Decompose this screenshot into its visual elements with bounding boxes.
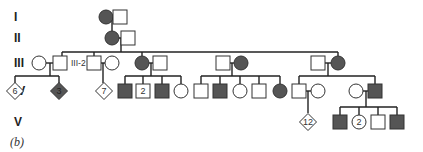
unaffected-male-symbol <box>87 56 101 70</box>
affected-female-symbol <box>105 31 119 45</box>
affected-male-symbol <box>333 115 347 129</box>
individual-III-10 <box>331 56 345 70</box>
individual-IV-m <box>292 84 306 98</box>
individual-III-6 <box>153 56 167 70</box>
individual-IV-j <box>233 84 247 98</box>
individual-V-e <box>390 115 404 129</box>
individual-III-4 <box>105 56 119 70</box>
unaffected-female-symbol <box>349 84 363 98</box>
unaffected-female-symbol <box>311 84 325 98</box>
individual-IV-e: 2 <box>136 84 150 98</box>
panel-label: (b) <box>10 135 24 149</box>
individual-IV-h <box>194 84 208 98</box>
unaffected-male-symbol <box>311 56 325 70</box>
affected-female-symbol <box>135 56 149 70</box>
individual-III-8 <box>234 56 248 70</box>
affected-male-symbol <box>155 84 169 98</box>
individual-label: III-2 <box>71 58 86 68</box>
generation-labels: IIIIIIIVV <box>14 10 25 129</box>
individual-IV-f <box>155 84 169 98</box>
unaffected-male-symbol <box>121 31 135 45</box>
individual-I-1 <box>99 10 113 24</box>
affected-male-symbol <box>118 84 132 98</box>
unaffected-male-symbol <box>153 56 167 70</box>
individual-III-9 <box>311 56 325 70</box>
generation-label: II <box>14 31 21 45</box>
affected-male-symbol <box>390 115 404 129</box>
unaffected-male-symbol <box>292 84 306 98</box>
individual-III-2: III-2 <box>53 56 86 70</box>
individual-II-1 <box>105 31 119 45</box>
unaffected-female-symbol <box>105 56 119 70</box>
unaffected-female-symbol <box>174 84 188 98</box>
sibling-count: 7 <box>101 86 106 96</box>
unaffected-male-symbol <box>216 56 230 70</box>
generation-label: V <box>14 115 22 129</box>
individual-IV-k <box>252 84 266 98</box>
affected-female-symbol <box>234 56 248 70</box>
individual-V-a: 12 <box>300 114 317 131</box>
individual-IV-p <box>368 84 382 98</box>
individual-III-3 <box>87 56 101 70</box>
affected-female-symbol <box>99 10 113 24</box>
unaffected-male-symbol <box>252 84 266 98</box>
affected-male-symbol <box>213 84 227 98</box>
sibling-count: 6 <box>12 86 17 96</box>
unaffected-female-symbol <box>32 56 46 70</box>
individual-V-b <box>333 115 347 129</box>
sibling-count: 3 <box>56 86 61 96</box>
individual-II-2 <box>121 31 135 45</box>
pedigree-figure: IIIIIIIVV III-26372122 (b) <box>0 0 423 152</box>
individual-III-7 <box>216 56 230 70</box>
pedigree-chart: IIIIIIIVV III-26372122 (b) <box>0 0 423 152</box>
individual-IV-c: 7 <box>96 83 113 100</box>
generation-label: III <box>14 56 24 70</box>
individual-IV-b: 3 <box>51 83 68 100</box>
affected-female-symbol <box>273 84 287 98</box>
individual-IV-i <box>213 84 227 98</box>
sibling-count: 2 <box>140 86 145 96</box>
individual-IV-n <box>311 84 325 98</box>
unaffected-male-symbol <box>371 115 385 129</box>
affected-female-symbol <box>331 56 345 70</box>
unaffected-male-symbol <box>113 10 127 24</box>
sibling-count: 12 <box>303 117 313 127</box>
generation-label: I <box>14 10 17 24</box>
unaffected-female-symbol <box>233 84 247 98</box>
individual-IV-l <box>273 84 287 98</box>
unaffected-male-symbol <box>53 56 67 70</box>
individual-I-2 <box>113 10 127 24</box>
unaffected-male-symbol <box>194 84 208 98</box>
individual-V-c: 2 <box>352 115 366 129</box>
affected-male-symbol <box>368 84 382 98</box>
sibling-count: 2 <box>356 117 361 127</box>
individual-III-1 <box>32 56 46 70</box>
individual-IV-o <box>349 84 363 98</box>
individual-IV-d <box>118 84 132 98</box>
individuals: III-26372122 <box>7 10 405 131</box>
individual-III-5 <box>135 56 149 70</box>
individual-IV-g <box>174 84 188 98</box>
individual-V-d <box>371 115 385 129</box>
